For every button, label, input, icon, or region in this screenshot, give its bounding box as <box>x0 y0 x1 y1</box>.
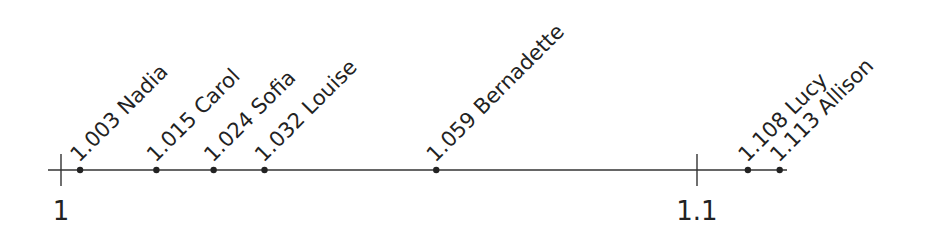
point-label-bernadette: 1.059 Bernadette <box>422 19 569 166</box>
data-point-bernadette <box>433 167 439 173</box>
tick-label: 1 <box>53 196 70 226</box>
data-point-allison <box>776 167 782 173</box>
tick-label: 1.1 <box>676 196 717 226</box>
data-point-louise <box>261 167 267 173</box>
axis-ticks: 11.1 <box>53 154 718 226</box>
data-point-nadia <box>77 167 83 173</box>
number-line-svg: 11.1 1.003 Nadia1.015 Carol1.024 Sofia1.… <box>0 0 927 236</box>
number-line-chart: 11.1 1.003 Nadia1.015 Carol1.024 Sofia1.… <box>0 0 927 236</box>
data-points: 1.003 Nadia1.015 Carol1.024 Sofia1.032 L… <box>66 19 879 173</box>
data-point-lucy <box>745 167 751 173</box>
data-point-carol <box>153 167 159 173</box>
data-point-sofia <box>210 167 216 173</box>
